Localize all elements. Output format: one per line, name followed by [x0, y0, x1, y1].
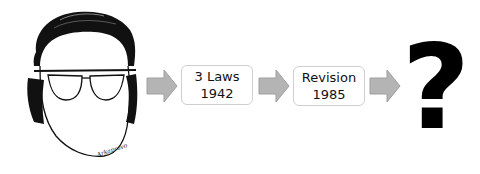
arrow-icon	[146, 69, 178, 103]
step-title: Revision	[302, 69, 356, 86]
question-mark-icon: ?	[400, 22, 472, 152]
step-title: 3 Laws	[194, 68, 239, 85]
step-box-revision: Revision 1985	[293, 66, 365, 106]
step-year: 1942	[200, 85, 233, 102]
diagram-canvas: Arkapravo 3 Laws 1942 Revision 1985 ?	[0, 0, 480, 174]
step-year: 1985	[312, 86, 345, 103]
arrow-icon	[369, 69, 401, 103]
arrow-icon	[258, 69, 290, 103]
step-box-3-laws: 3 Laws 1942	[181, 65, 253, 105]
